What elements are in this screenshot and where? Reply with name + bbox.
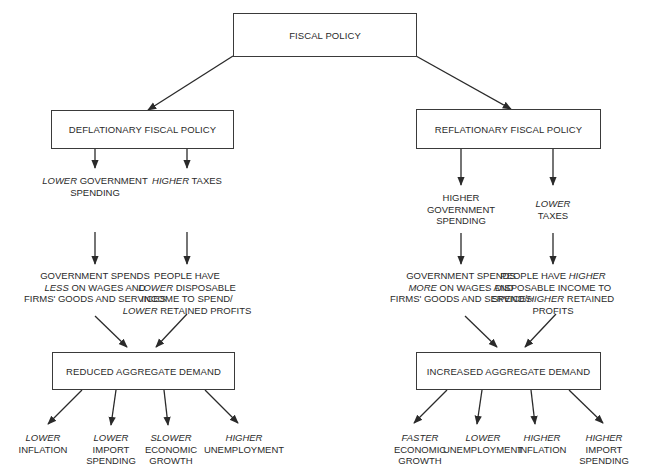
deflationary-outcome-label: SLOWERECONOMICGROWTH xyxy=(145,432,197,467)
deflationary-outcome-label: LOWERINFLATION xyxy=(19,432,68,455)
reflationary-arrow-to-demand xyxy=(525,314,556,347)
reflationary-arrow-to-outcome xyxy=(569,390,603,423)
reflationary-arrow-to-outcome xyxy=(477,390,482,424)
connector-layer xyxy=(0,0,652,474)
reflationary-arrow-to-outcome xyxy=(414,390,447,423)
deflationary-arrow-to-demand xyxy=(156,314,187,347)
deflationary-arrow-to-demand xyxy=(95,316,127,347)
arrow-root-to-deflationary xyxy=(148,56,233,110)
deflationary-arrow-to-outcome xyxy=(205,390,238,423)
deflationary-effect-label: PEOPLE HAVELOWER DISPOSABLEINCOME TO SPE… xyxy=(123,270,252,316)
reflationary-outcome-label: FASTERECONOMICGROWTH xyxy=(394,432,446,467)
reflationary-effect-label: PEOPLE HAVE HIGHERDISPOSABLE INCOME TOSP… xyxy=(492,270,614,316)
reflationary-arrow-to-outcome xyxy=(531,390,535,424)
fiscal-policy-diagram: FISCAL POLICY DEFLATIONARY FISCAL POLICY… xyxy=(0,0,652,474)
deflationary-arrow-to-outcome xyxy=(164,390,168,425)
reflationary-instrument-label: LOWERTAXES xyxy=(536,198,571,221)
reflationary-outcome-label: LOWERUNEMPLOYMENT xyxy=(443,432,523,455)
deflationary-box: DEFLATIONARY FISCAL POLICY xyxy=(51,110,234,149)
deflationary-arrow-to-outcome xyxy=(48,390,82,424)
deflationary-outcome-label: HIGHERUNEMPLOYMENT xyxy=(204,432,284,455)
reduced-demand-box: REDUCED AGGREGATE DEMAND xyxy=(52,352,235,390)
reflationary-outcome-label: HIGHERIMPORTSPENDING xyxy=(579,432,629,467)
deflationary-label: DEFLATIONARY FISCAL POLICY xyxy=(69,124,216,135)
deflationary-instrument-label: LOWER GOVERNMENTSPENDING xyxy=(42,175,148,198)
reduced-demand-label: REDUCED AGGREGATE DEMAND xyxy=(66,366,221,377)
reflationary-label: REFLATIONARY FISCAL POLICY xyxy=(435,124,582,135)
arrow-root-to-reflationary xyxy=(416,56,511,109)
root-box: FISCAL POLICY xyxy=(233,13,417,57)
reflationary-instrument-label: HIGHERGOVERNMENTSPENDING xyxy=(427,192,495,227)
deflationary-outcome-label: LOWERIMPORTSPENDING xyxy=(86,432,136,467)
root-label: FISCAL POLICY xyxy=(289,30,361,41)
deflationary-instrument-label: HIGHER TAXES xyxy=(152,175,222,187)
increased-demand-box: INCREASED AGGREGATE DEMAND xyxy=(416,352,601,390)
reflationary-arrow-to-demand xyxy=(465,316,497,347)
deflationary-arrow-to-outcome xyxy=(111,390,116,425)
increased-demand-label: INCREASED AGGREGATE DEMAND xyxy=(427,366,590,377)
reflationary-outcome-label: HIGHERINFLATION xyxy=(518,432,567,455)
reflationary-box: REFLATIONARY FISCAL POLICY xyxy=(416,109,601,149)
